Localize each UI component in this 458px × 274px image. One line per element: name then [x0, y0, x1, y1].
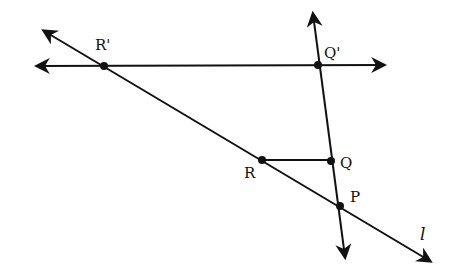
point-label-Q_prime: Q'	[324, 44, 340, 62]
geometry-figure: R'Q'RQP l	[0, 0, 458, 274]
point-label-Q: Q	[340, 154, 352, 172]
point-R	[258, 156, 266, 164]
point-label-R_prime: R'	[95, 36, 110, 54]
point-Q_prime	[314, 61, 322, 69]
point-label-P: P	[350, 188, 360, 206]
diagram: R'Q'RQP l	[0, 0, 458, 274]
horizontal-line-rprime-qprime	[37, 65, 384, 66]
point-R_prime	[100, 62, 108, 70]
line-label-l: l	[420, 224, 425, 244]
point-label-R: R	[244, 164, 256, 182]
point-Q	[327, 157, 335, 165]
point-P	[336, 202, 344, 210]
